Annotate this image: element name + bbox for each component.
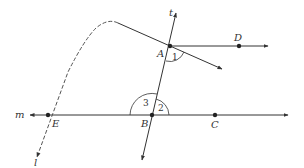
label-c: C: [211, 119, 219, 130]
point-c: [213, 113, 217, 117]
point-e: [46, 113, 50, 117]
point-d: [237, 44, 241, 48]
point-b: [150, 113, 154, 117]
label-e: E: [51, 118, 60, 129]
label-angle-2: 2: [158, 103, 164, 113]
geometry-diagram: A B C D E t m l 1 2 3: [0, 0, 304, 168]
label-d: D: [233, 32, 242, 43]
point-a: [168, 44, 172, 48]
line-l-dashed-curve: [37, 21, 118, 157]
line-t: [142, 13, 176, 160]
label-line-m: m: [15, 109, 24, 120]
label-line-t: t: [169, 7, 174, 18]
label-b: B: [140, 118, 148, 129]
label-angle-1: 1: [172, 52, 178, 62]
label-angle-3: 3: [143, 98, 149, 108]
label-a: A: [156, 48, 164, 59]
label-line-l: l: [34, 157, 37, 168]
